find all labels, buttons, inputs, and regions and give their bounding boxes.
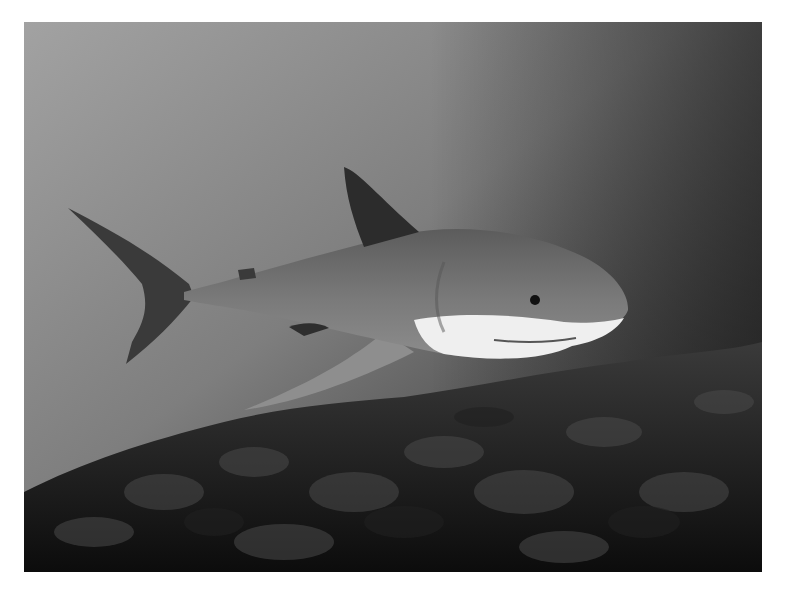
shark-eye: [530, 295, 540, 305]
shark-photo: [24, 22, 762, 572]
shark-photo-svg: [24, 22, 762, 572]
